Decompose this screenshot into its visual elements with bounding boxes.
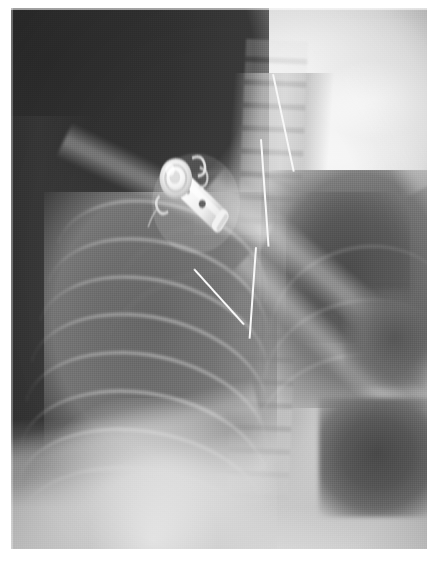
film-edge-top — [11, 8, 427, 10]
radiograph-film — [11, 8, 427, 549]
humerus-shaft-left — [337, 54, 427, 199]
radiograph-viewport: Chest radiograph — [0, 0, 441, 566]
catheter-upper-neck-limb — [272, 74, 295, 172]
